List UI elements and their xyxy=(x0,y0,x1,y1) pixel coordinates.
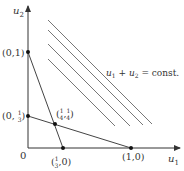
constraint-line-shallow xyxy=(28,116,131,148)
label-1-0: (1,0) xyxy=(122,151,145,162)
label-quarter-quarter: (14,14) xyxy=(56,107,74,121)
point-0-1 xyxy=(26,50,30,54)
point-quarter-quarter xyxy=(53,122,57,126)
point-third-0 xyxy=(61,146,65,150)
y-axis-label: u2 xyxy=(13,5,24,19)
origin-label: 0 xyxy=(20,150,26,161)
label-0-1: (0,1) xyxy=(2,47,25,58)
x-axis-label: u1 xyxy=(168,153,179,167)
level-line-label: u1 + u2 = const. xyxy=(106,68,179,79)
diagram-canvas: u2 u1 0 (0,1) (0, 13) (13,0) (1,0) (14,1… xyxy=(0,0,184,171)
constraint-line-steep xyxy=(28,52,63,148)
point-0-third xyxy=(26,114,30,118)
label-third-0: (13,0) xyxy=(51,155,71,169)
label-0-third: (0, 13) xyxy=(2,109,25,123)
point-1-0 xyxy=(129,146,133,150)
